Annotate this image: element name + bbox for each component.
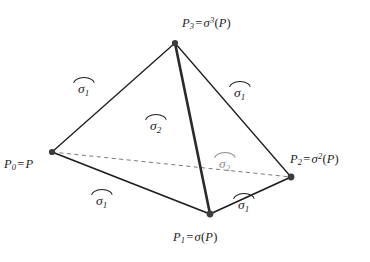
edge-label-sigma2-center: σ2 (150, 113, 161, 135)
edge-label-sigma1-upper-right: σ1 (234, 80, 245, 102)
sigma-subscript: 2 (157, 125, 162, 135)
vertex-dot-p3 (172, 40, 178, 46)
vertex-dot-p2 (288, 174, 295, 181)
vertex-label-p1-op: = (185, 230, 194, 244)
sigma-glyph: σ (78, 81, 85, 96)
vertex-label-p2-arg: P (327, 152, 335, 166)
edge-group (52, 43, 291, 214)
vertex-label-p3-close: ) (227, 16, 231, 30)
sigma-glyph: σ (238, 197, 245, 212)
sigma-glyph: σ (234, 85, 241, 100)
sigma-subscript: 1 (85, 88, 90, 98)
vertex-label-p2-close: ) (335, 152, 339, 166)
sigma-hat-wrap: σ1 (234, 80, 245, 102)
vertex-label-p3-base: P (182, 16, 190, 30)
edge-p3-p2 (175, 43, 291, 177)
sigma-glyph: σ (96, 193, 103, 208)
vertex-label-p0-base: P (4, 157, 12, 171)
sigma-glyph: σ (219, 156, 226, 171)
vertex-dot-p1 (207, 211, 214, 218)
edge-p0-p1 (52, 152, 210, 214)
vertex-label-p2-base: P (290, 152, 298, 166)
vertex-label-p2-op: = (302, 152, 311, 166)
edge-label-sigma1-lower-right: σ1 (238, 192, 249, 214)
sigma-subscript: 1 (245, 204, 250, 214)
sigma-hat-wrap: σ1 (96, 188, 107, 210)
edge-p3-p1-emphasized (175, 43, 210, 214)
vertex-label-p3-arg: P (219, 16, 227, 30)
sigma-subscript: 2 (226, 163, 231, 173)
vertex-dot-p0 (49, 149, 55, 155)
edge-p1-p2 (210, 177, 291, 214)
edge-label-sigma1-lower-left: σ1 (96, 188, 107, 210)
sigma-hat-wrap: σ2 (150, 113, 161, 135)
vertex-label-p1-base: P (173, 230, 181, 244)
edge-p0-p3 (52, 43, 175, 152)
vertex-label-p3-op: = (194, 16, 203, 30)
sigma-glyph: σ (150, 118, 157, 133)
vertex-label-p3: P3=σ3(P) (182, 16, 231, 31)
tetrahedron-svg (0, 0, 370, 262)
sigma-hat-wrap: σ1 (238, 192, 249, 214)
sigma-hat-wrap: σ2 (219, 151, 230, 173)
vertex-label-p1-close: ) (213, 230, 217, 244)
sigma-subscript: 1 (241, 92, 246, 102)
edge-label-sigma1-upper-left: σ1 (78, 76, 89, 98)
vertex-label-p1-arg: P (205, 230, 213, 244)
vertex-label-p0-rhs: P (26, 157, 34, 171)
vertex-label-p2: P2=σ2(P) (290, 152, 339, 167)
edge-p0-p2-hidden-dashed (52, 152, 291, 177)
vertex-label-p1: P1=σ(P) (173, 231, 218, 245)
sigma-subscript: 1 (103, 200, 108, 210)
vertex-label-p0: P0=P (4, 158, 33, 172)
vertex-label-p0-op: = (16, 157, 25, 171)
tetrahedron-figure: P3=σ3(P) P0=P P2=σ2(P) P1=σ(P) σ1 σ1 σ2 … (0, 0, 370, 262)
edge-label-sigma2-hidden: σ2 (219, 151, 230, 173)
vertex-dot-group (49, 40, 295, 218)
sigma-hat-wrap: σ1 (78, 76, 89, 98)
